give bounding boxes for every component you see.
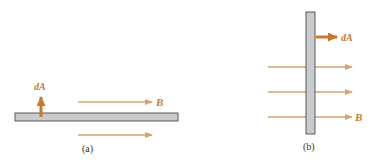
panel-b: dA B (b) [268, 12, 362, 153]
plate-b [306, 12, 315, 134]
field-label-a: B [155, 96, 163, 108]
plate-a [15, 113, 178, 121]
panel-a: B dA (a) [15, 81, 178, 155]
area-label-a: dA [34, 81, 46, 92]
area-label-b: dA [341, 32, 353, 43]
caption-b: (b) [303, 141, 315, 153]
caption-a: (a) [82, 143, 93, 155]
flux-diagram: B dA (a) dA B (b) [0, 0, 370, 161]
field-label-b: B [354, 111, 362, 123]
